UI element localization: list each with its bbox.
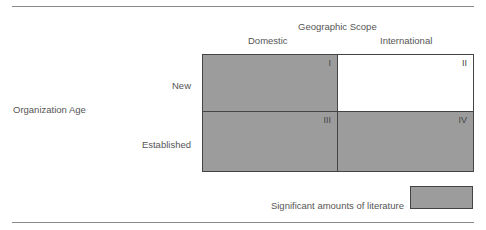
quadrant-iii: III — [203, 112, 338, 171]
legend-label: Significant amounts of literature — [271, 200, 404, 211]
top-rule — [12, 6, 474, 7]
bottom-rule — [12, 222, 474, 223]
quadrant-ii-label: II — [462, 58, 467, 68]
quadrant-i: I — [203, 55, 338, 112]
quadrant-iii-label: III — [323, 115, 331, 125]
column-label-international: International — [380, 35, 432, 46]
row-label-new: New — [172, 80, 191, 91]
quadrant-iv: IV — [338, 112, 473, 171]
quadrant-i-label: I — [328, 58, 331, 68]
quadrant-ii: II — [338, 55, 473, 112]
row-label-established: Established — [142, 139, 191, 150]
row-axis-title: Organization Age — [13, 104, 86, 115]
quadrant-grid: I II III IV — [202, 54, 474, 172]
legend-swatch — [410, 186, 473, 209]
column-axis-title: Geographic Scope — [298, 21, 377, 32]
quadrant-iv-label: IV — [458, 115, 467, 125]
column-label-domestic: Domestic — [248, 35, 288, 46]
